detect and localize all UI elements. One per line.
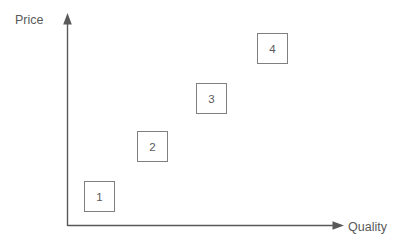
chart-axes [0,0,412,247]
y-axis-arrowhead [63,13,72,25]
data-point-box: 2 [137,131,168,162]
chart-canvas: Price Quality 1234 [0,0,412,247]
data-point-box: 1 [84,181,115,212]
data-point-box: 4 [257,33,288,64]
data-point-label: 2 [149,141,155,153]
data-point-label: 3 [208,93,214,105]
data-point-label: 4 [269,43,275,55]
data-point-label: 1 [96,191,102,203]
x-axis-label: Quality [348,221,387,234]
x-axis-arrowhead [333,221,345,230]
data-point-box: 3 [196,83,227,114]
y-axis-label: Price [15,14,43,27]
